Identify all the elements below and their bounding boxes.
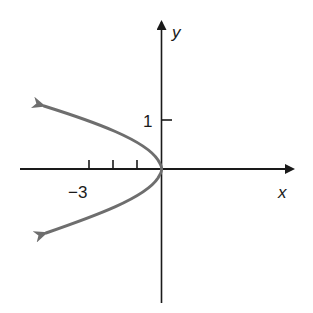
parabola-graph: y x 1 −3 bbox=[0, 0, 313, 313]
y-tick-label-1: 1 bbox=[143, 112, 152, 131]
x-axis-label: x bbox=[277, 183, 287, 202]
x-tick-label-neg3: −3 bbox=[68, 183, 87, 202]
y-axis-label: y bbox=[171, 23, 182, 42]
